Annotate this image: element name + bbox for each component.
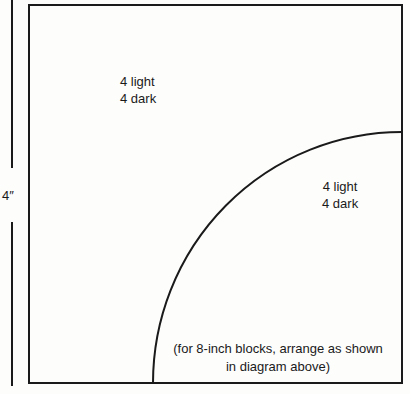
outer-region-dark-count: 4 dark [120,90,156,107]
outer-region-light-count: 4 light [120,73,156,90]
caption-line-2: in diagram above) [160,358,396,376]
arc-region-dark-count: 4 dark [322,195,358,212]
arc-region-label: 4 light 4 dark [322,178,358,212]
outer-region-label: 4 light 4 dark [120,73,156,107]
arc-region-light-count: 4 light [322,178,358,195]
arrangement-caption: (for 8-inch blocks, arrange as shown in … [160,340,396,376]
caption-line-1: (for 8-inch blocks, arrange as shown [160,340,396,358]
dimension-label: 4″ [2,188,14,204]
